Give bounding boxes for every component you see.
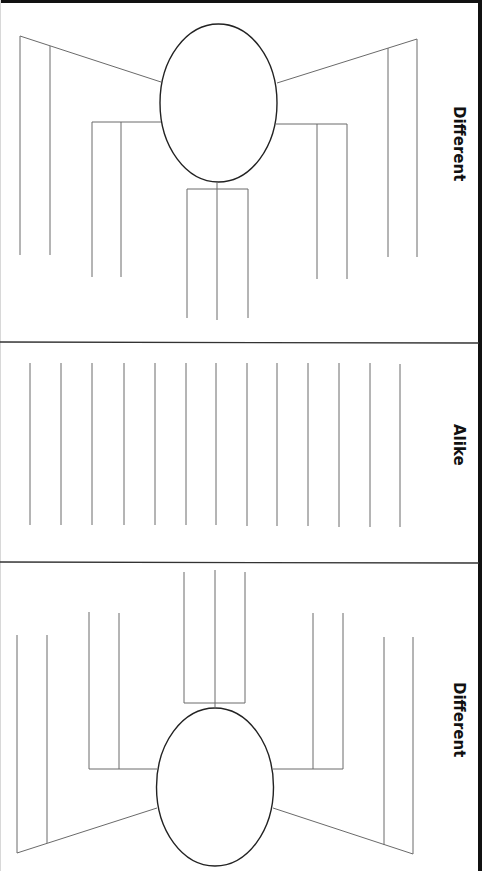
bottom-branch-right-inner — [273, 613, 343, 769]
worksheet-diagram — [0, 0, 482, 871]
bottom-branch-left-outer — [17, 635, 157, 853]
section-label-bottom: Different — [450, 682, 468, 757]
top-branch-left-outer — [20, 36, 161, 255]
bottom-center-ellipse[interactable] — [157, 708, 274, 866]
top-branch-right-inner — [276, 124, 347, 279]
divider-middle-bottom — [0, 562, 479, 563]
section-label-top: Different — [450, 106, 468, 181]
compare-contrast-worksheet: Different Alike Different — [0, 0, 482, 871]
divider-top-middle — [0, 342, 479, 343]
top-center-ellipse[interactable] — [160, 24, 277, 182]
alike-lines — [30, 363, 400, 527]
top-branch-left-inner — [92, 122, 161, 277]
bottom-branch-left-inner — [89, 612, 157, 769]
section-label-middle: Alike — [450, 424, 468, 466]
bottom-bubble-map — [17, 570, 413, 866]
top-bubble-map — [20, 24, 417, 320]
